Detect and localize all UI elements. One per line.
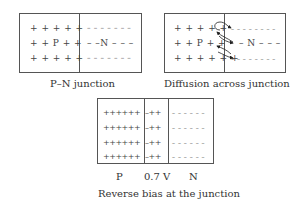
n-row: – – – – – – – <box>87 54 131 63</box>
depletion-n-boundary <box>168 99 169 163</box>
reverse-bias-caption: Reverse bias at the junction <box>98 188 240 199</box>
diffusion-caption: Diffusion across junction <box>164 78 290 89</box>
p-row: ++++++ <box>103 123 140 132</box>
depletion-row: –++ <box>145 152 161 161</box>
p-row: ++++++ <box>103 108 140 117</box>
n-row: – – – – – – – <box>87 24 131 33</box>
p-row: + + + + + <box>30 24 84 33</box>
n-row: – – – – – – <box>172 108 205 117</box>
n-row: – –N – – – <box>87 39 134 48</box>
n-region-label: N <box>189 171 198 182</box>
n-row: – – – – – – <box>172 123 205 132</box>
voltage-label: 0.7 V <box>144 171 170 182</box>
depletion-row: –++ <box>145 123 161 132</box>
p-region-label: P <box>116 171 123 182</box>
diffusion-arrows-icon <box>165 14 287 74</box>
diffusion-box: + + + + + + + P + + + + + + + + – – – – … <box>164 13 286 73</box>
p-row: + + + + + <box>30 54 84 63</box>
n-row: – – – – – – <box>172 152 205 161</box>
depletion-row: –++ <box>145 108 161 117</box>
p-row: ++++++ <box>103 152 140 161</box>
depletion-row: –++ <box>145 138 161 147</box>
pn-junction-box: + + + + + + + P + + + + + + + – – – – – … <box>19 13 142 73</box>
reverse-bias-box: ++++++ ++++++ ++++++ ++++++ –++ –++ –++ … <box>97 98 214 164</box>
p-row: ++++++ <box>103 138 140 147</box>
pn-junction-caption: P–N junction <box>50 78 115 89</box>
n-row: – – – – – – <box>172 138 205 147</box>
p-row: + + P + + <box>30 39 82 48</box>
